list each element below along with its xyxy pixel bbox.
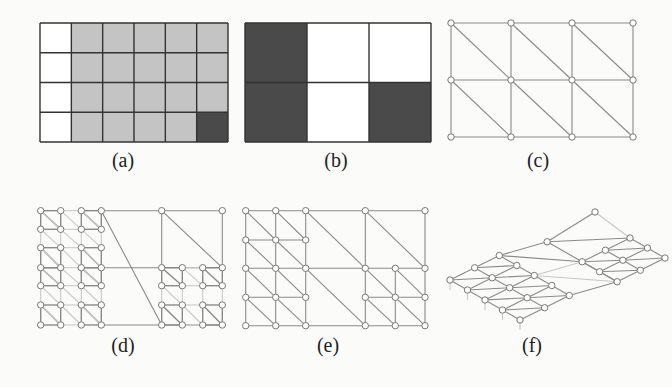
mesh-node — [508, 77, 514, 83]
mesh-node — [362, 323, 368, 329]
mesh-node — [273, 208, 279, 214]
mesh-node — [508, 134, 514, 140]
grid-cell — [369, 23, 431, 83]
mesh-node — [422, 323, 428, 329]
mesh-node — [549, 282, 555, 288]
mesh-node — [78, 208, 84, 214]
mesh-node — [273, 237, 279, 243]
mesh-node — [98, 265, 104, 271]
mesh-node — [362, 294, 368, 300]
mesh-node — [219, 265, 225, 271]
panel-b-label: (b) — [324, 149, 347, 172]
panel-e-label: (e) — [317, 334, 339, 357]
mesh-node — [273, 323, 279, 329]
mesh-node — [243, 294, 249, 300]
mesh-node — [273, 294, 279, 300]
figure: (a) (b) (c) (d) (e) (f) — [0, 0, 672, 387]
grid-cell — [40, 53, 71, 83]
mesh-node — [159, 283, 165, 289]
mesh-node — [243, 323, 249, 329]
mesh-node — [200, 283, 206, 289]
mesh-node — [58, 245, 64, 251]
grid-cell — [40, 83, 71, 113]
figure-canvas — [0, 0, 672, 387]
mesh-node — [392, 294, 398, 300]
grid-cell — [197, 23, 228, 53]
mesh-node — [506, 285, 512, 291]
mesh-node — [362, 265, 368, 271]
mesh-node — [219, 283, 225, 289]
mesh-node — [58, 302, 64, 308]
grid-cell — [197, 112, 228, 142]
mesh-node — [78, 302, 84, 308]
mesh-node — [592, 209, 598, 215]
mesh-node — [200, 302, 206, 308]
mesh-node — [159, 322, 165, 328]
mesh-node — [243, 265, 249, 271]
grid-cell — [103, 83, 134, 113]
mesh-node — [637, 267, 643, 273]
mesh-node — [98, 208, 104, 214]
panel-d-mesh — [38, 208, 226, 329]
mesh-node — [179, 322, 185, 328]
mesh-node — [38, 283, 44, 289]
panel-b-grid — [245, 23, 431, 142]
mesh-node — [78, 245, 84, 251]
mesh-node — [179, 283, 185, 289]
mesh-node — [447, 277, 453, 283]
mesh-node — [243, 237, 249, 243]
panel-c-label: (c) — [527, 149, 549, 172]
mesh-node — [499, 307, 505, 313]
mesh-node — [422, 294, 428, 300]
mesh-node — [566, 292, 572, 298]
grid-cell — [197, 53, 228, 83]
mesh-node — [58, 226, 64, 232]
mesh-node — [602, 247, 608, 253]
mesh-node — [514, 262, 520, 268]
mesh-node — [614, 279, 620, 285]
grid-cell — [103, 53, 134, 83]
grid-cell — [71, 83, 102, 113]
panel-c-mesh — [448, 20, 636, 140]
mesh-node — [471, 265, 477, 271]
mesh-node — [531, 272, 537, 278]
mesh-node — [58, 265, 64, 271]
mesh-node — [179, 302, 185, 308]
mesh-node — [78, 265, 84, 271]
mesh-node — [159, 302, 165, 308]
grid-cell — [40, 112, 71, 142]
mesh-node — [303, 323, 309, 329]
mesh-node — [448, 134, 454, 140]
mesh-node — [219, 208, 225, 214]
mesh-node — [464, 287, 470, 293]
mesh-node — [644, 245, 650, 251]
grid-cell — [71, 112, 102, 142]
grid-cell — [134, 23, 165, 53]
mesh-node — [38, 245, 44, 251]
mesh-node — [303, 208, 309, 214]
mesh-node — [78, 226, 84, 232]
grid-cell — [134, 112, 165, 142]
mesh-node — [303, 237, 309, 243]
grid-cell — [134, 83, 165, 113]
mesh-node — [579, 259, 585, 265]
mesh-node — [98, 322, 104, 328]
mesh-node — [544, 239, 550, 245]
panel-e-mesh — [243, 208, 429, 329]
mesh-node — [422, 265, 428, 271]
mesh-node — [273, 265, 279, 271]
mesh-node — [569, 20, 575, 26]
grid-cell — [103, 112, 134, 142]
mesh-node — [38, 265, 44, 271]
mesh-node — [627, 235, 633, 241]
mesh-node — [38, 208, 44, 214]
mesh-node — [78, 322, 84, 328]
mesh-node — [517, 317, 523, 323]
mesh-node — [98, 245, 104, 251]
mesh-node — [496, 252, 502, 258]
mesh-node — [303, 265, 309, 271]
mesh-node — [569, 134, 575, 140]
grid-cell — [71, 53, 102, 83]
mesh-node — [38, 226, 44, 232]
mesh-node — [243, 208, 249, 214]
